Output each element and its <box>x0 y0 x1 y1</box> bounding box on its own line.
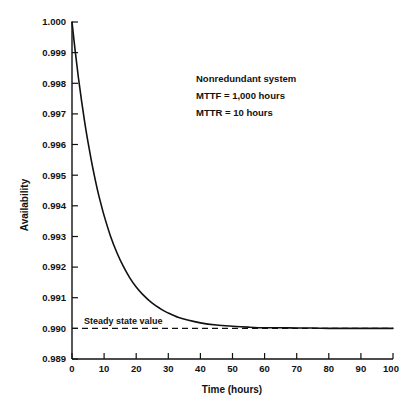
x-tick-label: 70 <box>291 363 302 374</box>
y-tick-label: 0.989 <box>42 353 66 364</box>
x-tick-label: 80 <box>324 363 335 374</box>
y-tick-label: 0.997 <box>42 108 66 119</box>
y-tick-label: 0.996 <box>42 139 66 150</box>
annotation-line-3: MTTR = 10 hours <box>196 107 273 118</box>
x-tick-label: 40 <box>195 363 206 374</box>
x-tick-label: 20 <box>131 363 142 374</box>
x-tick-label: 90 <box>356 363 367 374</box>
y-tick-label: 0.999 <box>42 47 66 58</box>
y-tick-label: 0.992 <box>42 261 66 272</box>
x-axis-ticks: 0 10 20 30 40 50 60 70 80 90 100 <box>69 353 399 374</box>
x-axis-title: Time (hours) <box>202 384 262 395</box>
availability-curve <box>72 22 393 328</box>
x-tick-label: 50 <box>227 363 238 374</box>
y-tick-label: 0.994 <box>42 200 66 211</box>
x-tick-label: 0 <box>69 363 74 374</box>
availability-chart-figure: 0.989 0.990 0.991 0.992 0.993 0.994 0.99… <box>0 0 412 414</box>
y-tick-label: 0.995 <box>42 170 66 181</box>
x-tick-label: 30 <box>163 363 174 374</box>
annotation-line-1: Nonredundant system <box>196 73 296 84</box>
y-tick-label: 0.993 <box>42 231 66 242</box>
y-axis-title: Availability <box>19 178 30 231</box>
y-tick-label: 0.998 <box>42 78 66 89</box>
x-tick-label: 60 <box>259 363 270 374</box>
parameter-annotation: Nonredundant system MTTF = 1,000 hours M… <box>196 73 296 118</box>
x-tick-label: 10 <box>99 363 110 374</box>
y-tick-label: 0.990 <box>42 323 66 334</box>
chart-canvas: 0.989 0.990 0.991 0.992 0.993 0.994 0.99… <box>0 0 412 414</box>
x-tick-label: 100 <box>383 363 399 374</box>
steady-state-label: Steady state value <box>84 316 163 326</box>
y-tick-label: 0.991 <box>42 292 66 303</box>
y-tick-label: 1.000 <box>42 16 66 27</box>
annotation-line-2: MTTF = 1,000 hours <box>196 90 285 101</box>
